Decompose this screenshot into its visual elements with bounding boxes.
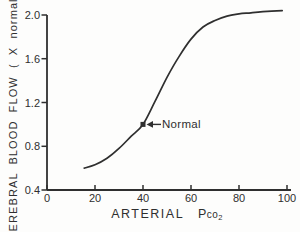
x-axis-title: ARTERIALPco2 <box>47 207 287 222</box>
chart-plot-area: 0.40.81.21.62.0020406080100 <box>0 0 300 232</box>
x-tick-label-80: 80 <box>233 192 245 204</box>
normal-arrow-head <box>147 121 154 128</box>
y-tick-label-0.8: 0.8 <box>25 140 40 152</box>
x-tick-label-60: 60 <box>185 192 197 204</box>
y-tick-label-1.2: 1.2 <box>25 97 40 109</box>
blood-flow-curve <box>84 11 282 169</box>
y-axis-title: CEREBRAL BLOOD FLOW ( X normal) <box>7 0 19 232</box>
y-tick-label-0.4: 0.4 <box>25 184 40 196</box>
y-tick-label-2.0: 2.0 <box>25 9 40 21</box>
x-axis-symbol-p: P <box>198 207 207 221</box>
x-tick-label-0: 0 <box>44 192 50 204</box>
normal-annotation-label: Normal <box>162 118 201 130</box>
y-tick-label-1.6: 1.6 <box>25 53 40 65</box>
x-axis-title-word: ARTERIAL <box>111 207 184 221</box>
normal-point-marker <box>141 122 146 127</box>
cerebral-blood-flow-figure: 0.40.81.21.62.0020406080100 CEREBRAL BLO… <box>0 0 300 232</box>
x-tick-label-100: 100 <box>278 192 296 204</box>
x-axis-title-symbol: Pco2 <box>198 207 223 221</box>
x-tick-label-20: 20 <box>89 192 101 204</box>
x-axis-symbol-subscript: 2 <box>218 213 223 222</box>
x-axis-symbol-co: co <box>207 209 218 220</box>
x-tick-label-40: 40 <box>137 192 149 204</box>
